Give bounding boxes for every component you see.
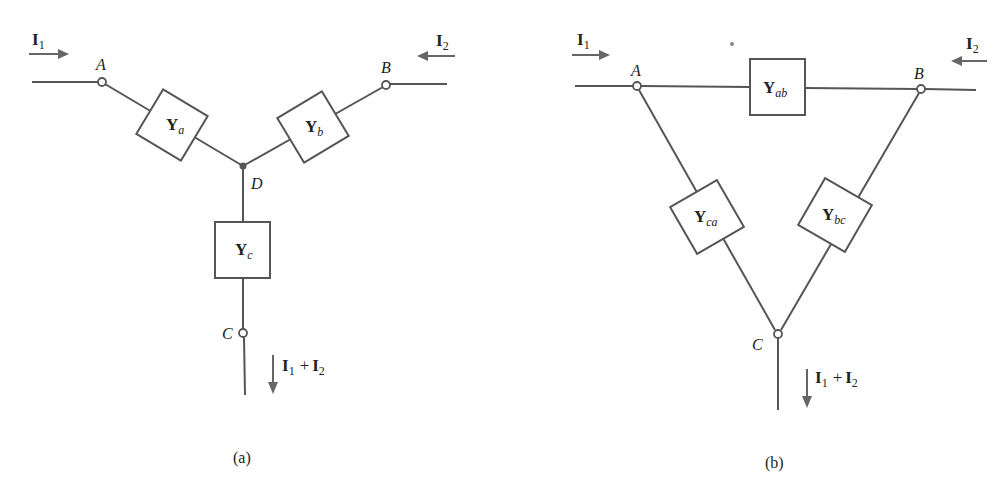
label-node-b: B (914, 65, 924, 82)
node-a-terminal (98, 78, 106, 86)
caption-b: (b) (765, 454, 784, 472)
arrow-left-icon (951, 56, 987, 66)
stray-dot-mark (730, 42, 734, 46)
diagram-a-wye-network: Ya Yb Yc A B D C I1 I2 (29, 30, 455, 467)
label-node-b: B (381, 59, 391, 76)
label-node-a: A (630, 62, 641, 79)
arrow-left-icon (417, 51, 455, 61)
label-node-c: C (222, 325, 233, 342)
arrow-right-icon (29, 49, 69, 59)
wire-a-to-yab (641, 86, 750, 87)
node-a-terminal (633, 82, 641, 90)
node-d-junction (240, 163, 247, 170)
node-b-terminal (917, 85, 925, 93)
caption-a: (a) (233, 449, 251, 467)
arrow-down-icon (268, 355, 278, 394)
wire-yab-to-b (805, 88, 917, 89)
wire-c-output (244, 337, 245, 395)
wire-b-right-input (925, 89, 976, 90)
node-b-terminal (382, 81, 390, 89)
label-node-d: D (250, 175, 263, 192)
arrow-down-icon (802, 369, 812, 408)
label-current-i1: I1 (577, 30, 590, 52)
label-current-sum: I1+I2 (282, 356, 325, 378)
arrow-right-icon (572, 50, 610, 60)
node-c-terminal (774, 330, 782, 338)
circuit-figure: Ya Yb Yc A B D C I1 I2 (0, 0, 1002, 489)
label-current-i2: I2 (966, 34, 979, 56)
label-node-a: A (95, 56, 106, 73)
label-current-i2: I2 (436, 31, 449, 53)
diagram-b-delta-network: Yab Yca Ybc A B C I1 I2 (572, 30, 987, 472)
label-node-c: C (752, 336, 763, 353)
label-current-i1: I1 (32, 30, 45, 52)
label-current-sum: I1+I2 (815, 368, 858, 390)
node-c-terminal (239, 329, 247, 337)
